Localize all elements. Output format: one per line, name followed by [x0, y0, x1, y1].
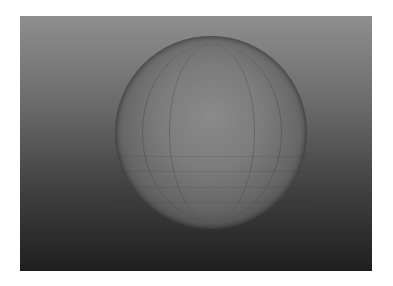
sphere-latitude-line	[115, 187, 307, 188]
sphere-latitude-line	[115, 171, 307, 172]
shaded-sphere	[115, 36, 307, 229]
sphere-latitude-line	[115, 202, 307, 203]
render-viewport	[20, 16, 372, 271]
sphere-latitude-line	[115, 156, 307, 157]
sphere-facet-band	[169, 44, 255, 222]
